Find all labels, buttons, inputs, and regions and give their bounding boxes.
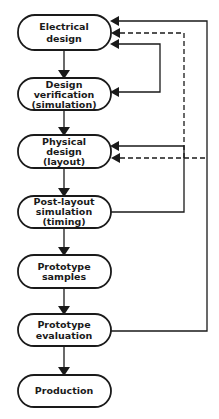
dashed-vertical [120, 33, 184, 158]
node-physical-design: Physical design (layout) [18, 135, 111, 168]
feedback-evaluation-electrical [111, 21, 207, 331]
node-label-line: (timing) [42, 216, 85, 227]
arrow-left-icon [111, 28, 120, 38]
node-electrical-design: Electrical design [18, 15, 111, 50]
feedback-verification-electrical [118, 44, 160, 92]
node-label-line: evaluation [36, 330, 93, 341]
node-label-line: Electrical [39, 21, 89, 32]
design-flow-diagram: Electrical design Design verification (s… [0, 0, 219, 419]
feedback-edges [110, 16, 207, 331]
node-prototype-samples: Prototype samples [18, 255, 111, 288]
node-label-line: design [46, 33, 82, 44]
node-label-line: (simulation) [31, 99, 96, 110]
node-prototype-evaluation: Prototype evaluation [18, 314, 111, 346]
node-post-layout-simulation: Post-layout simulation (timing) [18, 196, 111, 228]
node-production: Production [18, 375, 111, 407]
arrow-left-icon [111, 153, 120, 163]
node-label-line: Production [35, 385, 94, 396]
node-label-line: (layout) [43, 156, 85, 167]
node-label-line: Prototype [37, 319, 90, 330]
feedback-postlayout-physical [111, 146, 184, 212]
node-design-verification: Design verification (simulation) [18, 78, 111, 110]
arrow-left-icon [110, 16, 119, 26]
node-label-line: samples [42, 271, 86, 282]
arrow-left-icon [110, 39, 119, 49]
